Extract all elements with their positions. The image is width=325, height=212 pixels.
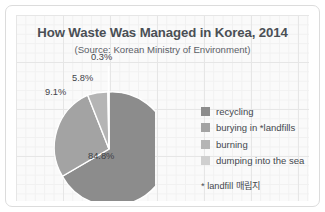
pie-svg [36, 58, 155, 201]
screenshot-frame: How Waste Was Managed in Korea, 2014 (So… [0, 0, 325, 212]
legend-item-burying[interactable]: burying in *landfills [201, 120, 309, 137]
legend-label: burying in *landfills [216, 122, 295, 133]
slice-value-burying: 9.1% [45, 87, 66, 97]
chart-legend: recycling burying in *landfills burning … [201, 103, 309, 169]
slice-value-recycling: 84.8% [88, 151, 114, 161]
legend-label: burning [216, 139, 248, 150]
legend-swatch-icon [201, 156, 210, 165]
legend-label: recycling [216, 106, 254, 117]
legend-item-recycling[interactable]: recycling [201, 103, 309, 120]
slice-value-burning: 5.8% [72, 73, 93, 83]
legend-item-dumping[interactable]: dumping into the sea [201, 153, 309, 170]
legend-label: dumping into the sea [216, 155, 304, 166]
chart-title: How Waste Was Managed in Korea, 2014 [16, 25, 309, 40]
legend-swatch-icon [201, 107, 210, 116]
slice-value-dumping: 0.3% [91, 52, 112, 62]
legend-swatch-icon [201, 140, 210, 149]
chart-canvas: How Waste Was Managed in Korea, 2014 (So… [16, 15, 309, 201]
chart-footnote: * landfill 매립지 [201, 178, 260, 192]
chart-subtitle: (Source: Korean Ministry of Environment) [16, 44, 309, 55]
pie-chart: 84.8% 9.1% 5.8% 0.3% [36, 58, 155, 201]
legend-swatch-icon [201, 123, 210, 132]
legend-item-burning[interactable]: burning [201, 136, 309, 153]
